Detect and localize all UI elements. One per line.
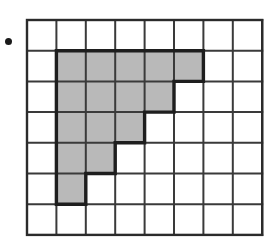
grid-cell-empty: [56, 20, 85, 51]
grid-cell-empty: [174, 20, 203, 51]
grid-cell-empty: [233, 51, 262, 82]
grid-cell-shaded: [145, 51, 174, 82]
grid-cell-empty: [203, 174, 232, 205]
grid-cell-empty: [27, 81, 56, 112]
grid-cell-empty: [174, 174, 203, 205]
grid-cell-empty: [174, 143, 203, 174]
grid-cell-empty: [115, 204, 144, 235]
grid-cell-empty: [174, 204, 203, 235]
grid-cell-empty: [86, 204, 115, 235]
grid-cell-shaded: [86, 112, 115, 143]
grid-cell-empty: [145, 174, 174, 205]
grid-cell-empty: [145, 112, 174, 143]
grid-cell-shaded: [56, 174, 85, 205]
grid-cell-empty: [203, 51, 232, 82]
grid-cell-empty: [27, 204, 56, 235]
grid-cell-empty: [115, 174, 144, 205]
grid-cell-shaded: [56, 143, 85, 174]
grid-cell-shaded: [115, 112, 144, 143]
grid-figure: [0, 0, 277, 251]
grid-cell-shaded: [56, 51, 85, 82]
grid-cell-empty: [27, 143, 56, 174]
grid-cell-empty: [56, 204, 85, 235]
grid-cell-empty: [145, 204, 174, 235]
grid-cell-empty: [86, 20, 115, 51]
grid-cell-empty: [86, 174, 115, 205]
grid-cell-empty: [115, 143, 144, 174]
grid-cell-shaded: [115, 51, 144, 82]
grid-cell-shaded: [56, 81, 85, 112]
grid-cell-shaded: [86, 51, 115, 82]
grid-cell-empty: [145, 20, 174, 51]
grid-cell-empty: [203, 81, 232, 112]
grid-cell-empty: [233, 143, 262, 174]
grid-cell-shaded: [86, 143, 115, 174]
grid-cell-empty: [27, 51, 56, 82]
grid-cell-shaded: [174, 51, 203, 82]
grid-cell-empty: [27, 112, 56, 143]
grid-cell-empty: [233, 204, 262, 235]
grid-cell-shaded: [86, 81, 115, 112]
grid-cell-shaded: [115, 81, 144, 112]
grid-cell-empty: [233, 81, 262, 112]
grid-cell-empty: [203, 204, 232, 235]
grid-cell-empty: [203, 20, 232, 51]
grid-cell-empty: [174, 112, 203, 143]
grid-cell-empty: [27, 174, 56, 205]
grid-cell-empty: [203, 112, 232, 143]
grid-cell-empty: [233, 20, 262, 51]
grid-cell-empty: [27, 20, 56, 51]
grid-cell-empty: [174, 81, 203, 112]
figure-root: [0, 0, 277, 251]
grid-cell-shaded: [56, 112, 85, 143]
grid-cell-empty: [115, 20, 144, 51]
grid-cell-empty: [233, 112, 262, 143]
grid-cell-empty: [233, 174, 262, 205]
grid-cell-empty: [145, 143, 174, 174]
grid-cell-shaded: [145, 81, 174, 112]
grid-cell-empty: [203, 143, 232, 174]
